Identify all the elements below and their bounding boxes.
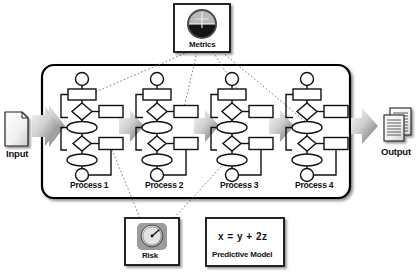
process-2-label: Process 2	[145, 180, 183, 190]
risk-label: Risk	[142, 251, 158, 260]
input-document-icon	[5, 112, 28, 146]
metrics-label: Metrics	[189, 40, 216, 49]
input-label: Input	[6, 148, 28, 159]
gauge-horizon-icon	[187, 9, 217, 39]
predictive-model-formula: x = y + 2z	[218, 231, 267, 242]
output-document-stack-icon	[384, 108, 411, 141]
process-4-label: Process 4	[295, 180, 333, 190]
dial-meter-icon	[137, 223, 167, 250]
process-3-label: Process 3	[220, 180, 258, 190]
arrow-process-4-to-output	[351, 108, 378, 144]
predictive-model-label: Predictive Model	[212, 250, 272, 259]
process-1-label: Process 1	[70, 180, 108, 190]
output-label: Output	[381, 146, 411, 157]
